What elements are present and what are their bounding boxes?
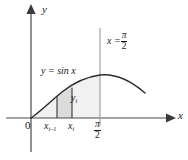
vertical-line-equation-fraction: π2 [121, 31, 128, 51]
y-axis-label: y [42, 4, 47, 15]
tick-label-x-i: xi [68, 121, 74, 132]
riemann-strip [57, 87, 72, 118]
tick-label-x-i-minus-1-subscript: i–1 [48, 125, 56, 132]
vertical-line-equation-label: x =π2 [107, 31, 127, 51]
math-figure: y x 0 y = sin x x =π2 yi xi–1 xi π2 [0, 0, 188, 160]
vertical-line-equation-lhs: x = [107, 35, 121, 46]
tick-label-pi-over-2-fraction: π2 [94, 120, 101, 140]
tick-label-pi-over-2: π2 [94, 120, 101, 140]
strip-height-subscript: i [75, 97, 77, 104]
vertical-line-equation-numerator: π [121, 31, 128, 41]
tick-label-x-i-subscript: i [72, 125, 74, 132]
tick-label-pi-over-2-denominator: 2 [94, 130, 101, 141]
strip-height-label: yi [71, 93, 77, 104]
y-axis-arrowhead [26, 4, 35, 14]
x-axis-label: x [178, 110, 183, 121]
curve-equation-label: y = sin x [41, 66, 76, 76]
tick-label-x-i-minus-1: xi–1 [44, 121, 56, 132]
vertical-line-equation-denominator: 2 [121, 41, 128, 52]
tick-label-pi-over-2-numerator: π [94, 120, 101, 130]
origin-label: 0 [25, 120, 31, 131]
x-axis-arrowhead [166, 113, 176, 122]
